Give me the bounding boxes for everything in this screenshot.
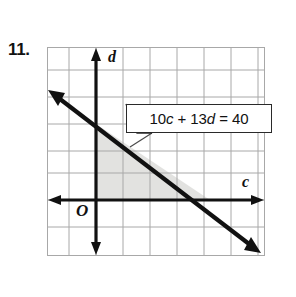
equation-var-d: d xyxy=(207,110,215,127)
equation-coef-d: 13 xyxy=(190,110,207,127)
equation-callout-box: 10c + 13d = 40 xyxy=(126,104,272,133)
equation-equals: = xyxy=(219,110,228,127)
equation-constant: 40 xyxy=(232,110,249,127)
d-axis-label: d xyxy=(108,48,116,66)
equation-plus: + xyxy=(178,110,187,127)
origin-label: O xyxy=(76,201,88,221)
problem-number: 11. xyxy=(8,40,30,60)
graph-figure: 11. xyxy=(0,0,296,297)
c-axis-label: c xyxy=(242,173,249,191)
equation-var-c: c xyxy=(166,110,173,127)
coordinate-plane xyxy=(47,47,265,256)
equation-coef-c: 10 xyxy=(150,110,167,127)
equation-text: 10c + 13d = 40 xyxy=(150,110,249,127)
